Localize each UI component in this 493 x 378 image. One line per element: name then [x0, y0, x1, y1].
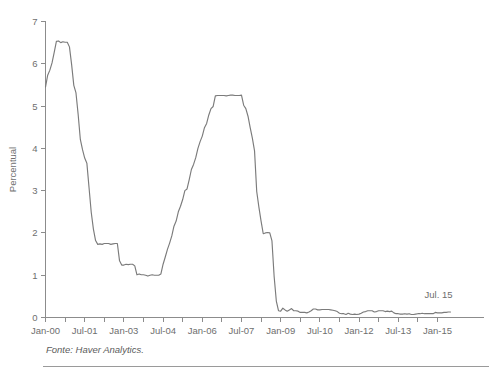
y-tick-label: 3	[32, 185, 37, 196]
y-tick-label: 7	[32, 16, 37, 27]
y-tick-label: 5	[32, 101, 37, 112]
x-tick-label: Jul-04	[150, 325, 176, 336]
x-tick-label: Jan-00	[31, 325, 60, 336]
chart-annotations: Jul. 15	[425, 289, 453, 300]
x-tick-label: Jul-07	[229, 325, 255, 336]
x-tick-label: Jul-10	[307, 325, 333, 336]
footer-divider	[43, 366, 489, 367]
top-cut-artifact	[70, 0, 470, 4]
y-tick-label: 0	[32, 312, 37, 323]
fed-funds-rate-figure: 01234567 Jan-00Jul-01Jan-03Jul-04Jan-06J…	[0, 0, 493, 378]
y-tick-label: 1	[32, 270, 37, 281]
y-axis-title-text: Percentual	[7, 147, 18, 192]
source-note: Fonte: Haver Analytics.	[46, 344, 144, 355]
y-tick-label: 2	[32, 227, 37, 238]
x-axis: Jan-00Jul-01Jan-03Jul-04Jan-06Jul-07Jan-…	[31, 318, 484, 336]
y-tick-label: 4	[32, 143, 37, 154]
y-tick-label: 6	[32, 58, 37, 69]
y-axis-title: Percentual	[7, 147, 18, 192]
x-tick-label: Jan-15	[423, 325, 452, 336]
x-tick-label: Jan-03	[109, 325, 138, 336]
line-chart-svg: 01234567 Jan-00Jul-01Jan-03Jul-04Jan-06J…	[0, 8, 493, 338]
y-axis: 01234567	[32, 16, 45, 323]
x-tick-label: Jul-13	[385, 325, 411, 336]
source-footer: Fonte: Haver Analytics.	[0, 344, 493, 378]
x-tick-label: Jan-06	[188, 325, 217, 336]
series-line-fed-funds-rate	[46, 41, 451, 315]
data-series-group	[46, 41, 451, 315]
x-tick-label: Jul-01	[72, 325, 98, 336]
chart-plot-area: 01234567 Jan-00Jul-01Jan-03Jul-04Jan-06J…	[0, 8, 493, 338]
last-point-annotation: Jul. 15	[425, 289, 453, 300]
x-tick-label: Jan-12	[345, 325, 374, 336]
x-tick-label: Jan-09	[266, 325, 295, 336]
